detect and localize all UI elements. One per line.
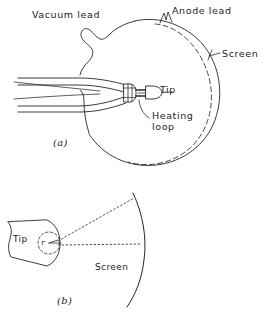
heating-loop-leader-line bbox=[139, 100, 149, 118]
screen-leader-line-a bbox=[208, 50, 220, 60]
projection-rays-b bbox=[58, 198, 141, 245]
tip-label-panel-a: Tip bbox=[160, 84, 176, 95]
emitter-ferrule bbox=[123, 84, 136, 102]
heating-loop-label-line2: loop bbox=[152, 121, 175, 132]
screen-label-panel-a: Screen bbox=[222, 48, 258, 59]
heating-loop-label: Heating loop bbox=[152, 110, 193, 132]
radius-of-curvature-label: r bbox=[41, 238, 45, 247]
tip-label-panel-b: Tip bbox=[13, 234, 28, 245]
panel-label-a: (a) bbox=[53, 137, 68, 148]
figure-container: Vacuum lead Anode lead Screen Tip Heatin… bbox=[0, 0, 265, 320]
support-tube-lower bbox=[18, 97, 126, 112]
emitter-shank bbox=[136, 90, 146, 96]
screen-label-panel-b: Screen bbox=[95, 262, 128, 273]
screen-arc-b bbox=[127, 193, 145, 307]
panel-label-b: (b) bbox=[57, 295, 72, 306]
heating-loop-label-line1: Heating bbox=[152, 110, 193, 121]
vacuum-lead-label: Vacuum lead bbox=[32, 9, 100, 20]
anode-lead-label: Anode lead bbox=[172, 5, 232, 16]
support-tube-upper bbox=[18, 78, 126, 92]
tube-neck-and-vacuum-stub bbox=[80, 21, 135, 133]
